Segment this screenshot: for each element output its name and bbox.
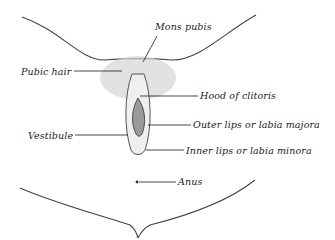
- label-hood-of-clitoris: Hood of clitoris: [200, 90, 276, 101]
- label-outer-lips: Outer lips or labia majora: [193, 119, 320, 130]
- vulva-region: [126, 74, 150, 183]
- anatomy-diagram: Mons pubis Pubic hair Hood of clitoris V…: [0, 0, 335, 240]
- label-inner-lips: Inner lips or labia minora: [186, 145, 312, 156]
- label-anus: Anus: [178, 176, 202, 187]
- label-mons-pubis: Mons pubis: [155, 21, 212, 32]
- label-pubic-hair: Pubic hair: [21, 66, 71, 77]
- label-vestibule: Vestibule: [28, 130, 73, 141]
